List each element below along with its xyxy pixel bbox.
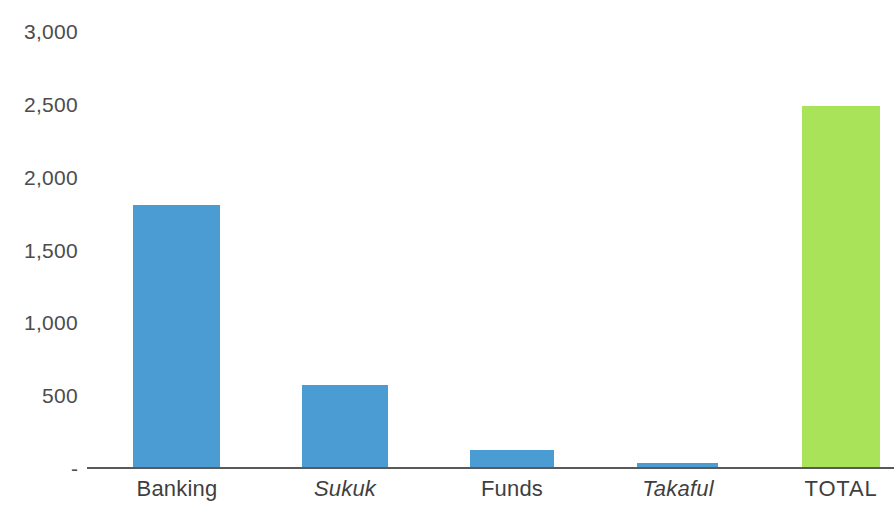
y-tick-label-3000: 3,000 — [0, 21, 78, 42]
bar-sukuk — [302, 385, 388, 468]
bar-chart: 3,000 2,500 2,000 1,500 1,000 500 - Bank… — [0, 0, 894, 506]
bar-total — [802, 106, 880, 468]
y-tick-label-500: 500 — [0, 385, 78, 406]
x-label-funds: Funds — [441, 477, 583, 501]
y-tick-label-1000: 1,000 — [0, 312, 78, 333]
x-label-takaful: Takaful — [607, 477, 749, 501]
x-label-banking: Banking — [106, 477, 248, 501]
y-tick-label-zero: - — [0, 458, 78, 479]
bar-banking — [133, 205, 220, 468]
y-tick-label-2500: 2,500 — [0, 94, 78, 115]
y-tick-label-2000: 2,000 — [0, 167, 78, 188]
y-tick-label-1500: 1,500 — [0, 240, 78, 261]
bar-funds — [470, 450, 554, 468]
x-label-total: TOTAL — [770, 477, 894, 501]
x-label-sukuk: Sukuk — [274, 477, 416, 501]
plot-area — [87, 0, 894, 468]
category-axis-line — [87, 467, 894, 469]
